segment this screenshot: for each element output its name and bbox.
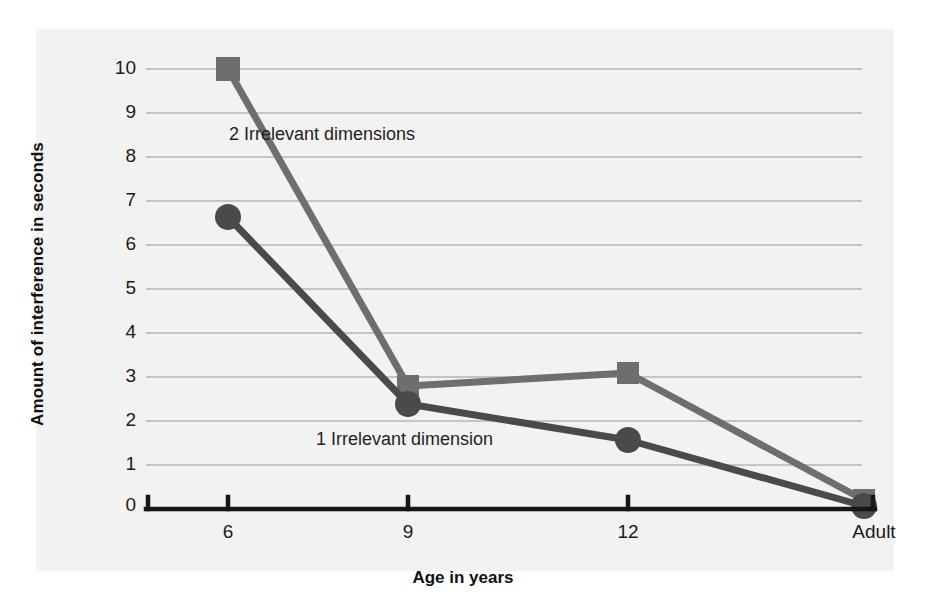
y-tick-label-2: 2 — [94, 409, 136, 431]
y-tick-label-0: 0 — [94, 494, 136, 516]
series-one-irrelevant-dimension — [215, 204, 877, 519]
series-label-one-irrelevant-dimension: 1 Irrelevant dimension — [316, 429, 493, 450]
series-label-two-irrelevant-dimensions: 2 Irrelevant dimensions — [229, 124, 415, 145]
series-one-point-age12 — [615, 427, 641, 453]
series-one-irrelevant-line — [228, 217, 864, 506]
y-tick-label-9: 9 — [94, 101, 136, 123]
x-axis-title: Age in years — [0, 568, 926, 588]
y-tick-label-1: 1 — [94, 453, 136, 475]
series-one-point-age9 — [395, 391, 421, 417]
y-tick-label-8: 8 — [94, 145, 136, 167]
y-tick-label-6: 6 — [94, 233, 136, 255]
chart-figure: 10 9 8 7 6 5 4 3 2 1 0 6 9 12 Adult Amou… — [0, 0, 926, 612]
y-tick-label-4: 4 — [94, 321, 136, 343]
x-tick-label-9: 9 — [368, 521, 448, 543]
y-axis-title: Amount of interference in seconds — [28, 114, 48, 454]
x-tick-label-12: 12 — [588, 521, 668, 543]
x-tick-label-6: 6 — [188, 521, 268, 543]
y-tick-label-10: 10 — [94, 57, 136, 79]
series-two-point-age6 — [216, 57, 240, 81]
line-chart-plot — [0, 0, 926, 612]
axis-lines — [146, 497, 875, 509]
x-tick-label-adult: Adult — [826, 521, 922, 543]
y-tick-label-3: 3 — [94, 365, 136, 387]
y-tick-label-5: 5 — [94, 277, 136, 299]
series-one-point-age6 — [215, 204, 241, 230]
series-two-point-age12 — [617, 362, 639, 384]
y-tick-label-7: 7 — [94, 189, 136, 211]
